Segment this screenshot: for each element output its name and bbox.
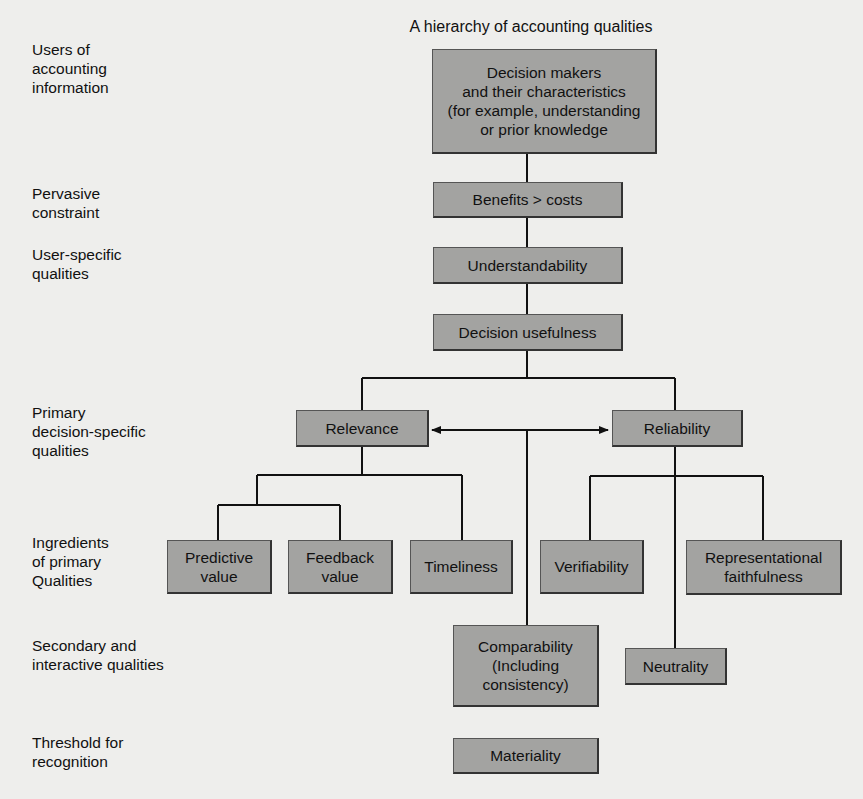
node-feedback-value-text: Feedback value [306, 548, 374, 586]
node-predictive-value: Predictive value [167, 540, 272, 594]
node-predictive-value-text: Predictive value [185, 548, 253, 586]
node-timeliness: Timeliness [410, 540, 513, 594]
node-benefits-costs-text: Benefits > costs [473, 190, 583, 209]
node-materiality: Materiality [453, 738, 599, 774]
node-understandability-text: Understandability [468, 256, 588, 275]
node-decision-usefulness: Decision usefulness [433, 314, 623, 351]
node-neutrality-text: Neutrality [643, 657, 708, 676]
node-feedback-value: Feedback value [288, 540, 393, 594]
node-verifiability-text: Verifiability [554, 557, 628, 576]
node-representational-faithfulness-text: Representational faithfulness [705, 548, 822, 586]
node-relevance: Relevance [296, 410, 429, 447]
node-decision-makers: Decision makers and their characteristic… [432, 49, 657, 154]
node-neutrality: Neutrality [625, 648, 727, 685]
node-timeliness-text: Timeliness [424, 557, 498, 576]
node-decision-makers-text: Decision makers and their characteristic… [447, 63, 640, 139]
node-relevance-text: Relevance [325, 419, 398, 438]
node-comparability-text: Comparability (Including consistency) [478, 637, 573, 694]
node-decision-usefulness-text: Decision usefulness [459, 323, 597, 342]
node-benefits-costs: Benefits > costs [433, 182, 623, 218]
node-representational-faithfulness: Representational faithfulness [686, 540, 842, 595]
node-understandability: Understandability [433, 247, 623, 284]
node-reliability-text: Reliability [644, 419, 710, 438]
node-verifiability: Verifiability [540, 540, 644, 594]
node-comparability: Comparability (Including consistency) [453, 625, 599, 707]
node-reliability: Reliability [612, 410, 743, 447]
node-materiality-text: Materiality [490, 746, 561, 765]
